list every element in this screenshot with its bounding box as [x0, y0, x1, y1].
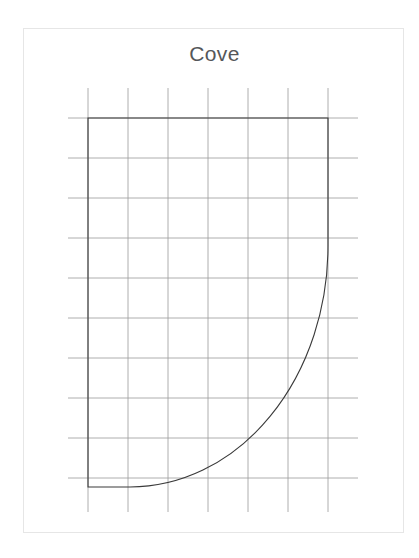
- figure-page: Cove: [0, 0, 419, 558]
- page-title: Cove: [24, 42, 405, 66]
- profile-card: Cove: [23, 28, 404, 533]
